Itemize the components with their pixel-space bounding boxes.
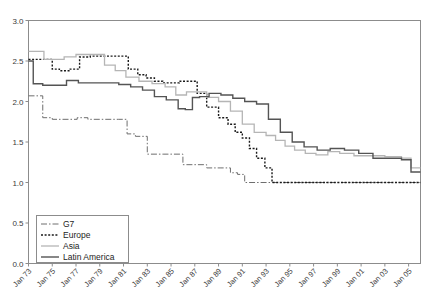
series-line-asia [29,51,421,168]
x-axis-labels: Jan 73Jan 75Jan 77Jan 79Jan 81Jan 83Jan … [11,267,413,289]
legend-label-europe: Europe [63,230,91,240]
series-line-g7 [29,96,421,183]
x-tick-label: Jan 79 [82,267,104,289]
x-tick-label: Jan 83 [130,267,152,289]
legend-label-asia: Asia [63,241,80,251]
legend-label-g7: G7 [63,219,75,229]
y-tick-label: 0.5 [12,219,24,228]
chart-container: 0.00.51.01.52.02.53.0 Jan 73Jan 75Jan 77… [0,0,430,308]
x-tick-label: Jan 03 [367,267,389,289]
x-tick-label: Jan 91 [225,267,247,289]
x-tick-label: Jan 05 [391,267,413,289]
y-tick-label: 0.0 [12,260,24,269]
y-tick-label: 1.0 [12,179,24,188]
y-tick-label: 2.0 [12,98,24,107]
y-tick-label: 3.0 [12,17,24,26]
x-tick-label: Jan 77 [59,267,81,289]
series-lines [29,51,421,182]
x-tick-label: Jan 89 [201,267,223,289]
x-tick-label: Jan 73 [11,267,33,289]
x-tick-label: Jan 75 [35,267,57,289]
x-tick-label: Jan 81 [106,267,128,289]
x-tick-label: Jan 01 [344,267,366,289]
chart-legend: G7EuropeAsiaLatin America [37,216,129,263]
legend-label-latin-america: Latin America [63,252,115,262]
x-tick-label: Jan 95 [272,267,294,289]
x-tick-label: Jan 97 [296,267,318,289]
line-chart: 0.00.51.01.52.02.53.0 Jan 73Jan 75Jan 77… [0,0,430,308]
y-tick-label: 2.5 [12,57,24,66]
y-tick-label: 1.5 [12,138,24,147]
x-tick-label: Jan 99 [320,267,342,289]
series-line-europe [29,56,421,182]
x-tick-label: Jan 85 [154,267,176,289]
x-tick-label: Jan 87 [177,267,199,289]
x-tick-label: Jan 93 [249,267,271,289]
y-axis-labels: 0.00.51.01.52.02.53.0 [12,17,24,269]
